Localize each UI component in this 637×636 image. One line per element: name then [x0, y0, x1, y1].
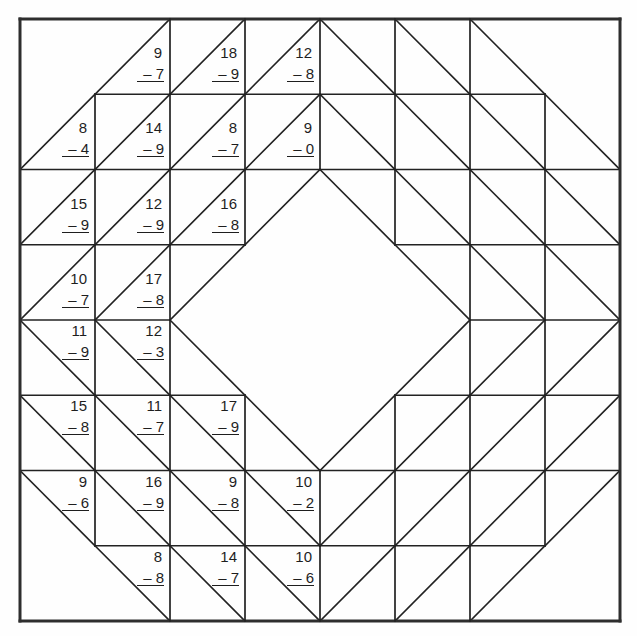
- minuend: 10: [295, 474, 312, 489]
- minuend: 17: [220, 398, 237, 413]
- subtrahend: – 2: [293, 495, 314, 510]
- diagonal-line: [545, 170, 620, 245]
- subtrahend: – 9: [143, 495, 164, 510]
- diagonal-line: [245, 395, 320, 470]
- minuend: 10: [295, 549, 312, 564]
- subtrahend: – 0: [293, 141, 314, 156]
- minuend: 12: [295, 45, 312, 60]
- diagonal-line: [545, 245, 620, 320]
- subtraction-problem: 9– 7: [95, 19, 170, 94]
- minuend: 14: [220, 549, 237, 564]
- minuend: 11: [71, 323, 87, 338]
- answer-line: [212, 510, 239, 511]
- minuend: 9: [304, 120, 312, 135]
- answer-line: [62, 510, 89, 511]
- answer-line: [137, 434, 164, 435]
- minuend: 9: [79, 474, 87, 489]
- answer-line: [137, 232, 164, 233]
- minuend: 12: [145, 196, 162, 211]
- subtraction-problem: 8– 7: [170, 94, 245, 169]
- answer-line: [287, 585, 314, 586]
- diagonal-line: [470, 170, 545, 245]
- diagonal-line: [395, 471, 470, 546]
- subtrahend: – 7: [143, 419, 164, 434]
- answer-line: [62, 307, 89, 308]
- subtraction-problem: 8– 8: [95, 546, 170, 621]
- diagonal-line: [245, 170, 320, 245]
- subtraction-problem: 11– 9: [20, 320, 95, 395]
- minuend: 16: [145, 474, 162, 489]
- minuend: 15: [70, 398, 87, 413]
- diagonal-line: [545, 471, 620, 546]
- answer-line: [137, 585, 164, 586]
- subtraction-problem: 16– 9: [95, 471, 170, 546]
- subtrahend: – 8: [143, 292, 164, 307]
- diagonal-line: [170, 320, 245, 395]
- answer-line: [62, 156, 89, 157]
- subtrahend: – 9: [218, 419, 239, 434]
- subtraction-problem: 16– 8: [170, 170, 245, 245]
- minuend: 16: [220, 196, 237, 211]
- minuend: 14: [145, 120, 162, 135]
- answer-line: [212, 81, 239, 82]
- diagonal-line: [545, 320, 620, 395]
- diagonal-line: [470, 19, 545, 94]
- diagonal-line: [470, 320, 545, 395]
- subtraction-problem: 9– 0: [245, 94, 320, 169]
- subtrahend: – 9: [218, 66, 239, 81]
- answer-line: [62, 359, 89, 360]
- diagonal-line: [395, 395, 470, 470]
- subtraction-problem: 9– 6: [20, 471, 95, 546]
- subtraction-problem: 8– 4: [20, 94, 95, 169]
- subtrahend: – 9: [143, 217, 164, 232]
- answer-line: [287, 81, 314, 82]
- subtrahend: – 6: [68, 495, 89, 510]
- diagonal-line: [395, 546, 470, 621]
- diagonal-line: [395, 19, 470, 94]
- subtraction-problem: 15– 8: [20, 395, 95, 470]
- subtrahend: – 7: [68, 292, 89, 307]
- answer-line: [137, 81, 164, 82]
- minuend: 10: [70, 271, 87, 286]
- quilt-worksheet: 9– 718– 912– 88– 414– 98– 79– 015– 912– …: [0, 0, 637, 636]
- diagonal-line: [470, 94, 545, 169]
- subtraction-problem: 18– 9: [170, 19, 245, 94]
- subtraction-problem: 12– 3: [95, 320, 170, 395]
- diagonal-line: [470, 546, 545, 621]
- minuend: 11: [146, 398, 162, 413]
- subtraction-problem: 17– 9: [170, 395, 245, 470]
- answer-line: [287, 510, 314, 511]
- subtraction-problem: 11– 7: [95, 395, 170, 470]
- minuend: 18: [220, 45, 237, 60]
- minuend: 12: [145, 323, 162, 338]
- answer-line: [137, 156, 164, 157]
- answer-line: [212, 156, 239, 157]
- subtrahend: – 9: [68, 344, 89, 359]
- subtrahend: – 8: [143, 570, 164, 585]
- subtraction-problem: 17– 8: [95, 245, 170, 320]
- minuend: 17: [145, 271, 162, 286]
- subtraction-problem: 12– 8: [245, 19, 320, 94]
- diagonal-line: [470, 471, 545, 546]
- subtrahend: – 8: [293, 66, 314, 81]
- diagonal-line: [395, 170, 470, 245]
- answer-line: [287, 156, 314, 157]
- answer-line: [62, 434, 89, 435]
- subtrahend: – 8: [218, 217, 239, 232]
- answer-line: [137, 359, 164, 360]
- diagonal-line: [320, 19, 395, 94]
- subtraction-problem: 10– 2: [245, 471, 320, 546]
- minuend: 9: [229, 474, 237, 489]
- answer-line: [137, 307, 164, 308]
- subtraction-problem: 10– 6: [245, 546, 320, 621]
- subtrahend: – 8: [218, 495, 239, 510]
- subtrahend: – 9: [143, 141, 164, 156]
- minuend: 8: [229, 120, 237, 135]
- subtraction-problem: 9– 8: [170, 471, 245, 546]
- answer-line: [62, 232, 89, 233]
- subtraction-problem: 10– 7: [20, 245, 95, 320]
- minuend: 15: [70, 196, 87, 211]
- subtraction-problem: 15– 9: [20, 170, 95, 245]
- subtraction-problem: 14– 7: [170, 546, 245, 621]
- diagonal-line: [320, 94, 395, 169]
